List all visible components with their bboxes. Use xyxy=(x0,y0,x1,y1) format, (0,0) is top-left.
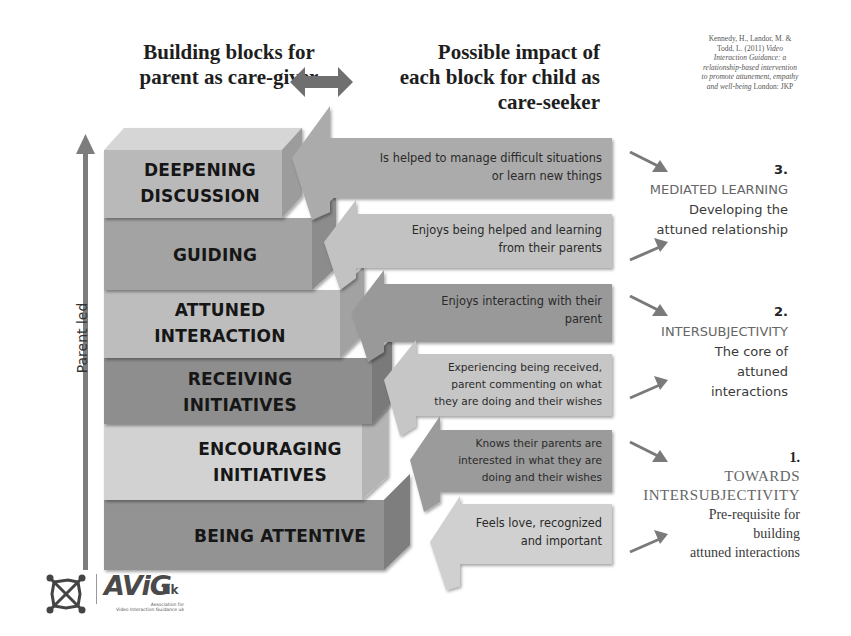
block-label-guiding: GUIDING xyxy=(130,242,300,268)
stage-number: 2. xyxy=(640,302,788,322)
impact-line: Is helped to manage difficult situations xyxy=(330,150,602,168)
impact-text-1: Is helped to manage difficult situations… xyxy=(330,150,602,185)
block-label-line: DEEPENING xyxy=(120,157,280,183)
stage-title-line1: TOWARDS xyxy=(600,467,800,486)
impact-text-3: Enjoys interacting with their parent xyxy=(386,293,602,328)
stage-desc: attuned interactions xyxy=(600,543,800,562)
stage-number: 1. xyxy=(600,448,800,467)
block-label-line: INITIATIVES xyxy=(170,462,370,488)
impact-line: doing and their wishes xyxy=(436,469,602,486)
logo-divider xyxy=(96,574,97,604)
impact-line: parent xyxy=(386,311,602,329)
impact-line: Enjoys being helped and learning xyxy=(360,222,602,240)
block-label-line: GUIDING xyxy=(130,242,300,268)
impact-line: or learn new things xyxy=(330,168,602,186)
block-label-line: ENCOURAGING xyxy=(170,436,370,462)
impact-line: Enjoys interacting with their xyxy=(386,293,602,311)
stage-desc: attuned relationship xyxy=(596,220,788,240)
impact-text-6: Feels love, recognized and important xyxy=(460,515,602,550)
impact-line: Feels love, recognized xyxy=(460,515,602,533)
impact-text-2: Enjoys being helped and learning from th… xyxy=(360,222,602,257)
block-label-encouraging: ENCOURAGING INITIATIVES xyxy=(170,436,370,488)
block-label-receiving: RECEIVING INITIATIVES xyxy=(150,366,330,418)
logo-brand: AViG xyxy=(104,570,171,601)
block-label-line: INTERACTION xyxy=(130,323,310,349)
block-label-line: ATTUNED xyxy=(130,297,310,323)
stage-title-line2: INTERSUBJECTIVITY xyxy=(600,486,800,505)
stage-desc: building xyxy=(600,524,800,543)
block-label-line: BEING ATTENTIVE xyxy=(170,523,390,549)
pointer-arrow-icon xyxy=(630,246,662,260)
impact-line: they are doing and their wishes xyxy=(410,393,602,410)
block-label-deepening: DEEPENING DISCUSSION xyxy=(120,157,280,209)
stage-3: 3. MEDIATED LEARNING Developing the attu… xyxy=(596,160,788,240)
impact-line: parent commenting on what xyxy=(410,376,602,393)
impact-line: from their parents xyxy=(360,240,602,258)
double-headed-arrow-icon xyxy=(290,67,353,97)
stage-1: 1. TOWARDS INTERSUBJECTIVITY Pre-requisi… xyxy=(600,448,800,562)
logo-subtitle-line: Video Interaction Guidance uk xyxy=(74,607,184,612)
logo-subtitle: Association for Video Interaction Guidan… xyxy=(74,602,184,612)
block-label-being-attentive: BEING ATTENTIVE xyxy=(170,523,390,549)
stage-title: MEDIATED LEARNING xyxy=(596,180,788,200)
block-label-attuned: ATTUNED INTERACTION xyxy=(130,297,310,349)
block-label-line: RECEIVING xyxy=(150,366,330,392)
impact-line: interested in what they are xyxy=(436,452,602,469)
stage-desc: Pre-requisite for xyxy=(600,505,800,524)
impact-text-5: Knows their parents are interested in wh… xyxy=(436,435,602,486)
stage-desc: attuned xyxy=(640,362,788,382)
block-label-line: DISCUSSION xyxy=(120,183,280,209)
logo-suffix: uk xyxy=(162,583,179,597)
impact-text-4: Experiencing being received, parent comm… xyxy=(410,359,602,410)
impact-line: and important xyxy=(460,533,602,551)
stage-number: 3. xyxy=(596,160,788,180)
stage-desc: interactions xyxy=(640,382,788,402)
stage-desc: The core of xyxy=(640,342,788,362)
stage-title: INTERSUBJECTIVITY xyxy=(640,322,788,342)
impact-line: Knows their parents are xyxy=(436,435,602,452)
block-label-line: INITIATIVES xyxy=(150,392,330,418)
avig-logo: AViG uk Association for Video Interactio… xyxy=(44,570,194,618)
impact-line: Experiencing being received, xyxy=(410,359,602,376)
stage-desc: Developing the xyxy=(596,200,788,220)
axis-label: Parent led xyxy=(74,298,90,378)
stage-2: 2. INTERSUBJECTIVITY The core of attuned… xyxy=(640,302,788,402)
